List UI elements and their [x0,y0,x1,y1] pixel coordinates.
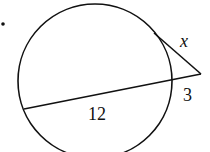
external-secant-label: 3 [183,85,192,105]
circle [18,4,172,152]
chord-label: 12 [88,104,106,124]
bullet-dot [1,22,5,26]
tangent-label: x [179,31,188,51]
secant-line [24,74,201,109]
tangent-segment [154,33,201,74]
geometry-diagram: x 3 12 [0,0,210,152]
